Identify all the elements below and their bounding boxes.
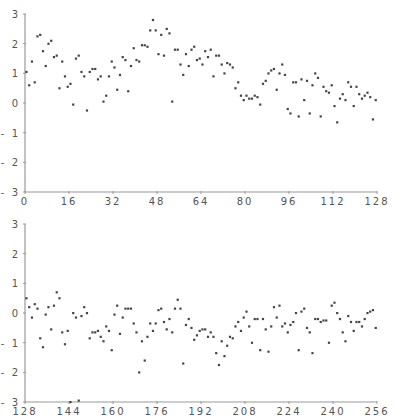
scatter-figure: 3210- 1- 2- 301632486480961121283210- 1-… — [0, 0, 400, 418]
data-point — [201, 63, 203, 65]
y-tick-label: - 1 — [1, 128, 20, 139]
data-point — [300, 311, 302, 313]
data-point — [311, 84, 313, 86]
y-tick-label: - 2 — [1, 157, 20, 168]
data-point — [56, 291, 58, 293]
data-point — [61, 60, 63, 62]
data-point — [133, 322, 135, 324]
data-point — [221, 63, 223, 65]
data-point — [31, 316, 33, 318]
data-point — [138, 60, 140, 62]
data-point — [58, 297, 60, 299]
x-tick-label: 208 — [232, 406, 257, 417]
y-tick-label: - 3 — [1, 187, 20, 198]
chart-canvas: 3210- 1- 2- 301632486480961121283210- 1-… — [0, 0, 400, 418]
data-point — [135, 59, 137, 61]
data-point — [47, 306, 49, 308]
data-point — [292, 321, 294, 323]
data-point — [185, 53, 187, 55]
data-point — [168, 32, 170, 34]
x-tick-label: 128 — [12, 406, 37, 417]
x-tick-label: 112 — [320, 196, 345, 207]
data-point — [254, 318, 256, 320]
data-point — [141, 340, 143, 342]
data-point — [42, 50, 44, 52]
data-point — [254, 95, 256, 97]
data-point — [39, 337, 41, 339]
data-point — [303, 308, 305, 310]
data-point — [80, 315, 82, 317]
data-point — [366, 312, 368, 314]
data-point — [325, 90, 327, 92]
data-point — [174, 49, 176, 51]
data-point — [278, 72, 280, 74]
data-point — [36, 308, 38, 310]
data-point — [204, 328, 206, 330]
data-point — [372, 309, 374, 311]
data-point — [155, 29, 157, 31]
data-point — [64, 343, 66, 345]
data-point — [347, 81, 349, 83]
data-point — [292, 81, 294, 83]
data-point — [111, 60, 113, 62]
data-point — [361, 98, 363, 100]
data-point — [287, 108, 289, 110]
data-point — [78, 55, 80, 57]
y-tick-label: 3 — [12, 9, 20, 20]
y-tick-label: 0 — [12, 308, 20, 319]
data-point — [50, 40, 52, 42]
data-point — [204, 50, 206, 52]
data-point — [243, 316, 245, 318]
data-point — [25, 297, 27, 299]
data-point — [25, 71, 27, 73]
data-point — [119, 74, 121, 76]
data-point — [300, 78, 302, 80]
data-point — [251, 98, 253, 100]
data-point — [215, 55, 217, 57]
y-tick-label: 2 — [12, 249, 20, 260]
data-point — [295, 81, 297, 83]
data-point — [207, 56, 209, 58]
data-point — [287, 331, 289, 333]
x-tick-label: 224 — [276, 406, 301, 417]
x-tick-label: 240 — [320, 406, 345, 417]
data-point — [67, 330, 69, 332]
data-point — [190, 49, 192, 51]
y-tick-label: 1 — [12, 68, 20, 79]
data-point — [83, 75, 85, 77]
data-point — [152, 330, 154, 332]
data-point — [157, 309, 159, 311]
data-point — [185, 324, 187, 326]
data-point — [31, 60, 33, 62]
data-point — [34, 303, 36, 305]
data-point — [171, 101, 173, 103]
data-point — [218, 55, 220, 57]
data-point — [369, 96, 371, 98]
data-point — [166, 28, 168, 30]
data-point — [69, 401, 71, 403]
data-point — [298, 349, 300, 351]
x-tick-label: 128 — [364, 196, 389, 207]
data-point — [141, 44, 143, 46]
data-point — [47, 43, 49, 45]
data-point — [234, 87, 236, 89]
data-point — [102, 340, 104, 342]
data-point — [122, 316, 124, 318]
data-point — [163, 321, 165, 323]
data-point — [256, 96, 258, 98]
data-point — [240, 330, 242, 332]
data-point — [270, 69, 272, 71]
data-point — [212, 336, 214, 338]
data-point — [149, 29, 151, 31]
data-point — [317, 318, 319, 320]
data-point — [328, 92, 330, 94]
data-point — [105, 325, 107, 327]
data-point — [135, 331, 137, 333]
data-point — [83, 306, 85, 308]
data-point — [295, 312, 297, 314]
data-point — [144, 359, 146, 361]
data-point — [226, 62, 228, 64]
data-point — [240, 95, 242, 97]
data-point — [67, 86, 69, 88]
data-point — [267, 72, 269, 74]
